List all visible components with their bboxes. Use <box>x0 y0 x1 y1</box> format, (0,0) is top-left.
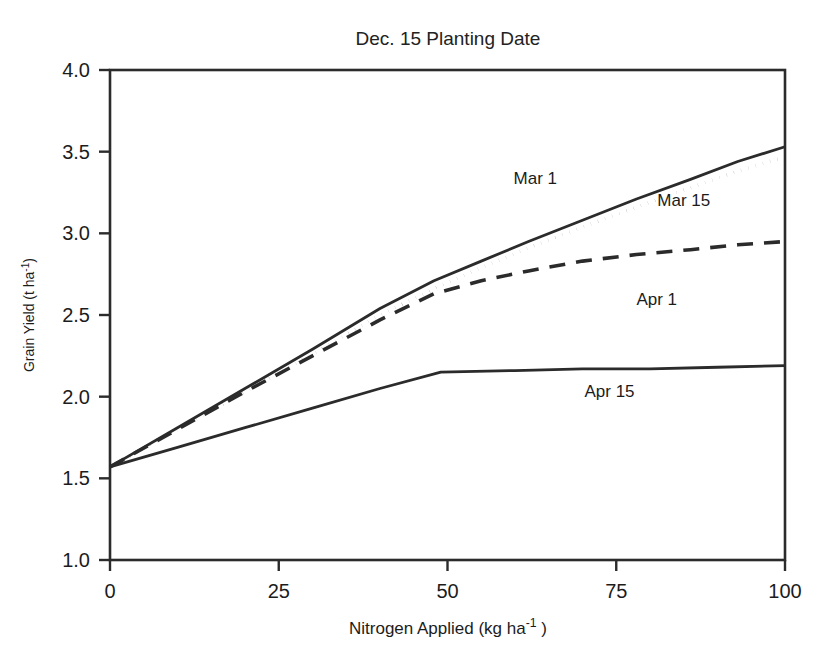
chart-background <box>0 0 828 662</box>
x-axis-title-tail: ) <box>537 619 547 638</box>
series-label-apr-1: Apr 1 <box>636 290 677 309</box>
y-axis-title-main: Grain Yield (t ha <box>21 271 37 372</box>
chart-title: Dec. 15 Planting Date <box>356 28 541 49</box>
y-tick-label-1.0: 1.0 <box>62 549 90 571</box>
svg-text:Nitrogen Applied (kg ha-1 ): Nitrogen Applied (kg ha-1 ) <box>349 616 547 638</box>
svg-text:Grain Yield (t ha-1): Grain Yield (t ha-1) <box>20 258 38 372</box>
series-label-mar-15: Mar 15 <box>657 191 710 210</box>
x-tick-label-75: 75 <box>605 580 627 602</box>
y-axis-title-tail: ) <box>21 258 37 263</box>
figure-container: Dec. 15 Planting Date 1.01.52.02.53.03.5… <box>0 0 828 662</box>
y-tick-label-3.0: 3.0 <box>62 222 90 244</box>
x-tick-label-50: 50 <box>436 580 458 602</box>
y-tick-label-2.5: 2.5 <box>62 304 90 326</box>
line-chart: Dec. 15 Planting Date 1.01.52.02.53.03.5… <box>0 0 828 662</box>
y-axis-title: Grain Yield (t ha-1) <box>20 258 38 372</box>
series-label-apr-15: Apr 15 <box>584 382 634 401</box>
x-tick-label-100: 100 <box>768 580 801 602</box>
series-label-mar-1: Mar 1 <box>514 169 557 188</box>
x-axis-title-main: Nitrogen Applied (kg ha <box>349 619 526 638</box>
x-tick-label-0: 0 <box>104 580 115 602</box>
y-tick-label-4.0: 4.0 <box>62 59 90 81</box>
x-axis-title-superscript: -1 <box>526 616 537 630</box>
y-tick-label-2.0: 2.0 <box>62 386 90 408</box>
y-tick-label-3.5: 3.5 <box>62 141 90 163</box>
x-tick-label-25: 25 <box>268 580 290 602</box>
x-axis-title: Nitrogen Applied (kg ha-1 ) <box>349 616 547 638</box>
y-axis-title-superscript: -1 <box>20 262 31 271</box>
y-tick-label-1.5: 1.5 <box>62 467 90 489</box>
